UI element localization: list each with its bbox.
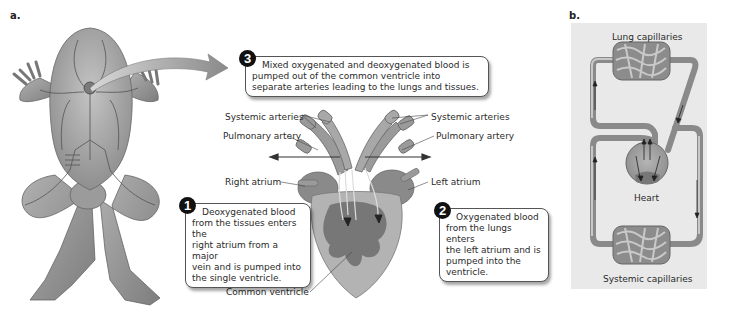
lung-capillary-bed — [613, 42, 670, 80]
circulation-schematic — [0, 0, 731, 311]
label-lung-capillaries: Lung capillaries — [612, 33, 682, 42]
label-systemic-capillaries: Systemic capillaries — [603, 275, 693, 284]
label-heart: Heart — [634, 194, 659, 203]
systemic-capillary-bed — [613, 226, 670, 264]
